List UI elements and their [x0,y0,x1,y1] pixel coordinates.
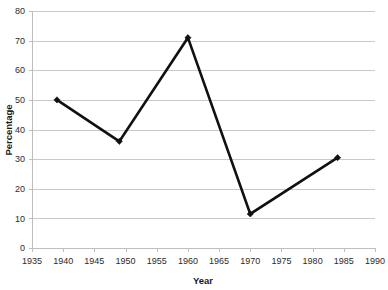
y-tick-label-60: 60 [15,65,25,75]
x-tick-label-1935: 1935 [22,256,42,266]
x-axis-title: Year [193,275,213,286]
y-tick-label-40: 40 [15,125,25,135]
x-tick-label-1940: 1940 [53,256,73,266]
y-tick-label-10: 10 [15,214,25,224]
x-tick-label-1975: 1975 [271,256,291,266]
x-tick-label-1965: 1965 [209,256,229,266]
y-axis-tick-labels: 01020304050607080 [15,6,25,253]
x-tick-label-1990: 1990 [365,256,385,266]
line-chart: 01020304050607080 1935194019451950195519… [0,0,388,290]
x-tick-label-1985: 1985 [334,256,354,266]
x-tick-label-1950: 1950 [116,256,136,266]
y-tick-label-80: 80 [15,6,25,16]
chart-container: 01020304050607080 1935194019451950195519… [0,0,388,290]
x-tick-label-1970: 1970 [240,256,260,266]
y-tick-label-20: 20 [15,184,25,194]
y-tick-label-70: 70 [15,36,25,46]
y-tick-label-30: 30 [15,154,25,164]
y-tick-label-0: 0 [20,243,25,253]
x-tick-label-1945: 1945 [84,256,104,266]
x-tick-label-1980: 1980 [303,256,323,266]
chart-background [0,0,388,290]
y-tick-label-50: 50 [15,95,25,105]
x-tick-label-1960: 1960 [178,256,198,266]
x-tick-label-1955: 1955 [147,256,167,266]
y-axis-title: Percentage [3,104,14,155]
